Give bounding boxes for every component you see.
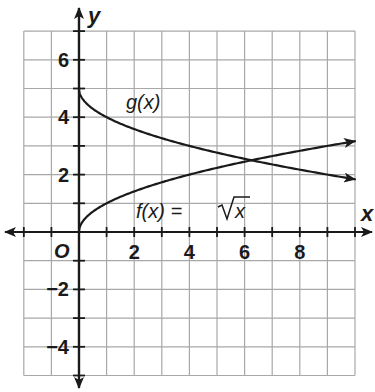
chart-svg: 2468642−2−4 y x O g(x) f(x) = x — [0, 0, 375, 392]
labels: y x O g(x) f(x) = x — [54, 3, 374, 262]
x-axis-label: x — [360, 201, 374, 226]
y-tick-label: 4 — [58, 106, 70, 128]
y-axis-label: y — [87, 3, 102, 28]
x-tick-label: 6 — [239, 241, 250, 263]
x-tick-label: 4 — [184, 241, 196, 263]
g-function-label: g(x) — [126, 91, 160, 113]
origin-label: O — [54, 240, 70, 262]
y-tick-label: 6 — [58, 49, 69, 71]
y-tick-label: −4 — [46, 336, 70, 358]
y-tick-label: −2 — [46, 278, 69, 300]
chart-container: 2468642−2−4 y x O g(x) f(x) = x — [0, 0, 375, 392]
x-tick-label: 2 — [129, 241, 140, 263]
x-tick-label: 8 — [294, 241, 305, 263]
f-label-radicand: x — [234, 200, 246, 222]
f-function-label: f(x) = — [136, 200, 182, 222]
f-label-prefix: f(x) = — [136, 200, 182, 222]
y-tick-label: 2 — [58, 164, 69, 186]
